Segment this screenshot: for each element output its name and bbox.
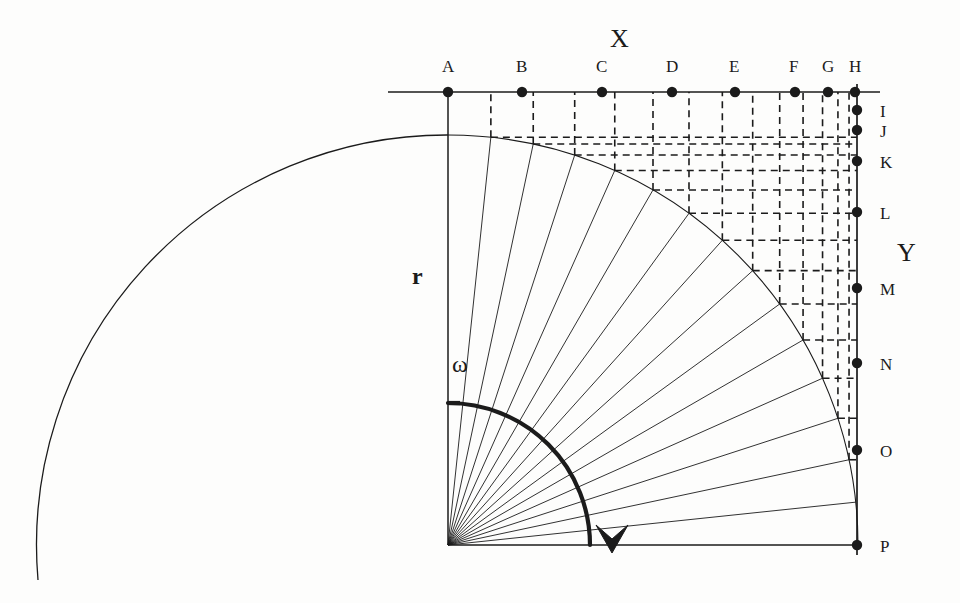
y-point-dot-K [852, 156, 862, 166]
radial-spoke-1 [448, 137, 491, 545]
x-axis-label: X [610, 26, 629, 52]
radial-spoke-8 [448, 271, 753, 545]
radial-spoke-2 [448, 144, 533, 545]
y-point-dot-J [852, 125, 862, 135]
x-point-label-F: F [789, 58, 798, 75]
y-point-dot-M [852, 283, 862, 293]
y-point-label-N: N [880, 356, 892, 373]
x-point-dot-F [790, 87, 800, 97]
y-point-label-K: K [880, 154, 892, 171]
x-point-dot-H [850, 87, 860, 97]
y-point-label-J: J [880, 123, 887, 140]
rotation-direction-arc [448, 403, 590, 545]
radial-spoke-13 [448, 460, 849, 545]
y-point-dot-P [852, 540, 862, 550]
y-point-dot-L [852, 207, 862, 217]
x-point-label-A: A [442, 58, 454, 75]
outer-circle-arc [37, 135, 448, 580]
x-point-label-D: D [666, 58, 678, 75]
x-point-label-G: G [822, 58, 834, 75]
x-point-dot-B [517, 87, 527, 97]
radial-spoke-11 [448, 378, 823, 545]
radial-spoke-5 [448, 190, 653, 545]
x-point-label-C: C [596, 58, 607, 75]
radial-spoke-6 [448, 213, 689, 545]
x-point-dot-D [667, 87, 677, 97]
radial-spoke-14 [448, 502, 856, 545]
radial-spoke-4 [448, 170, 615, 545]
radius-label: r [412, 264, 423, 288]
y-point-dot-N [852, 358, 862, 368]
x-point-dot-A [443, 87, 453, 97]
y-axis-label: Y [897, 240, 916, 266]
y-point-label-O: O [880, 443, 892, 460]
diagram-canvas: ABCDEFGHIJKLMNOPXYrω [0, 0, 960, 603]
radial-spoke-10 [448, 340, 803, 545]
radial-spoke-12 [448, 418, 838, 545]
x-point-label-H: H [849, 58, 861, 75]
y-point-label-I: I [880, 103, 886, 120]
radial-spoke-9 [448, 304, 780, 545]
construction-quarter-arc [448, 135, 858, 545]
rotation-arrowhead [596, 525, 628, 553]
y-point-label-L: L [880, 205, 890, 222]
x-point-label-B: B [516, 58, 527, 75]
x-point-dot-G [823, 87, 833, 97]
angular-velocity-label: ω [452, 352, 468, 376]
y-point-dot-O [852, 445, 862, 455]
x-point-dot-E [730, 87, 740, 97]
y-point-label-M: M [880, 281, 895, 298]
y-point-dot-I [852, 105, 862, 115]
x-point-dot-C [597, 87, 607, 97]
y-point-label-P: P [880, 538, 889, 555]
construction-drawing [0, 0, 960, 603]
radial-spoke-7 [448, 240, 722, 545]
x-point-label-E: E [729, 58, 739, 75]
